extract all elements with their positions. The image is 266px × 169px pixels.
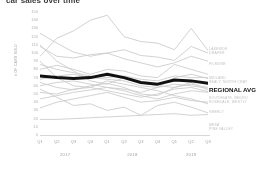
series-labels-right: LAKESIDEDRAPERFILMOREMIDLANDSEALY, NORTH… (209, 12, 266, 137)
y-tick-label: 30 (34, 108, 38, 112)
x-axis-tick-labels: Q1Q2Q3Q4Q1Q2Q3Q4Q1Q2Q3 (40, 139, 208, 149)
x-tick-label: Q1 (37, 139, 43, 144)
x-tick-label: Q4 (155, 139, 161, 144)
y-tick-label: 100 (31, 51, 38, 55)
x-year-label: 2017 (60, 152, 71, 157)
plot-area (40, 12, 208, 135)
series-label: DRAPER (209, 52, 225, 56)
series-label: PINE VALLEY (209, 128, 233, 132)
series-label: FILMORE (209, 63, 226, 67)
x-tick-label: Q4 (88, 139, 94, 144)
x-tick-label: Q2 (54, 139, 60, 144)
series-line (40, 92, 208, 108)
y-tick-label: 140 (31, 18, 38, 22)
x-year-label: 2019 (186, 152, 197, 157)
series-line (40, 33, 208, 60)
chart-title: car sales over time (6, 0, 80, 5)
y-axis-tick-labels: 1501401301201101009080706050403020100 (16, 12, 38, 135)
series-label: ROSEDALE, WESTLY (209, 101, 247, 105)
y-tick-label: 80 (34, 67, 38, 71)
x-tick-label: Q3 (71, 139, 77, 144)
x-axis-year-labels: 201720182019 (40, 152, 208, 162)
chart-screenshot: car sales over time # OF CARS SOLD 15014… (0, 0, 266, 169)
series-label: GREELY (209, 111, 224, 115)
y-tick-label: 0 (36, 133, 38, 137)
y-tick-label: 20 (34, 117, 38, 121)
regional-avg-label: REGIONAL AVG (209, 88, 256, 92)
y-tick-label: 70 (34, 76, 38, 80)
x-tick-label: Q1 (172, 139, 178, 144)
y-tick-label: 60 (34, 84, 38, 88)
y-tick-label: 120 (31, 35, 38, 39)
y-tick-label: 50 (34, 92, 38, 96)
y-tick-label: 90 (34, 59, 38, 63)
y-tick-label: 150 (31, 10, 38, 14)
y-tick-label: 110 (32, 43, 38, 47)
x-tick-label: Q2 (188, 139, 194, 144)
x-axis-line (40, 135, 210, 136)
y-tick-label: 130 (31, 26, 38, 30)
y-tick-label: 40 (34, 100, 38, 104)
series-line (40, 89, 208, 115)
x-tick-label: Q3 (205, 139, 211, 144)
series-line (40, 114, 208, 120)
x-tick-label: Q2 (121, 139, 127, 144)
x-tick-label: Q3 (138, 139, 144, 144)
x-tick-label: Q1 (104, 139, 110, 144)
series-label: SEALY, NORTH CRAY (209, 81, 247, 85)
series-lines (40, 12, 208, 135)
x-year-label: 2018 (127, 152, 138, 157)
y-tick-label: 10 (34, 125, 38, 129)
